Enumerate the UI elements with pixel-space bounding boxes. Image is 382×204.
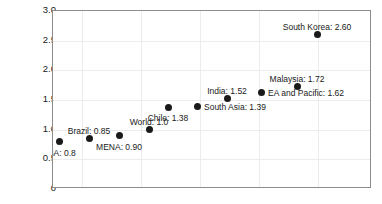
gridline-vertical: [200, 11, 201, 187]
gridline-horizontal: [53, 70, 370, 71]
plot-area: SSA: 0.8Brazil: 0.85MENA: 0.90World: 1.0…: [52, 10, 371, 188]
data-point-south-korea[interactable]: [314, 31, 321, 38]
gridline-vertical: [141, 11, 142, 187]
data-label-mena: MENA: 0.90: [96, 143, 142, 152]
data-point-chile[interactable]: [165, 104, 172, 111]
y-axis-tick-0-5: 0.5: [12, 154, 56, 164]
gridline-vertical: [82, 11, 83, 187]
data-point-south-asia[interactable]: [194, 103, 201, 110]
data-point-brazil[interactable]: [86, 135, 93, 142]
data-point-india[interactable]: [224, 95, 231, 102]
y-axis-tick-0: 0: [12, 183, 56, 193]
data-label-south-asia: South Asia: 1.39: [204, 103, 266, 112]
data-label-india: India: 1.52: [207, 87, 247, 96]
data-point-world[interactable]: [146, 126, 153, 133]
gridline-horizontal: [53, 159, 370, 160]
gridline-horizontal: [53, 41, 370, 42]
data-label-malaysia: Malaysia: 1.72: [270, 75, 325, 84]
data-point-ea-and-pacific[interactable]: [258, 89, 265, 96]
y-axis-tick-1-0: 1.0: [12, 124, 56, 134]
y-axis-tick-1-5: 1.5: [12, 94, 56, 104]
data-label-ea-and-pacific: EA and Pacific: 1.62: [268, 89, 344, 98]
data-point-mena[interactable]: [116, 132, 123, 139]
scatter-chart: 3.02.52.01.51.00.50 SSA: 0.8Brazil: 0.85…: [0, 0, 382, 204]
data-label-chile: Chile: 1.38: [148, 114, 189, 123]
data-label-south-korea: South Korea: 2.60: [283, 23, 352, 32]
data-label-brazil: Brazil: 0.85: [68, 127, 111, 136]
y-axis-tick-2-5: 2.5: [12, 35, 56, 45]
y-axis-tick-2-0: 2.0: [12, 65, 56, 75]
data-point-malaysia[interactable]: [294, 83, 301, 90]
data-label-ssa: SSA: 0.8: [52, 149, 76, 158]
y-axis-tick-3-0: 3.0: [12, 5, 56, 15]
gridline-vertical: [259, 11, 260, 187]
data-point-ssa[interactable]: [56, 138, 63, 145]
